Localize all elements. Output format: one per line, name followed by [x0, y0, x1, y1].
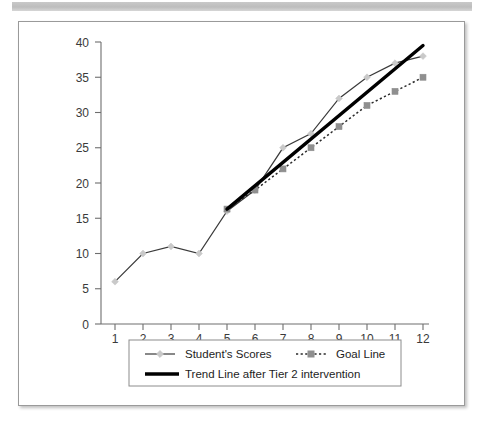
data-point-marker [196, 250, 203, 257]
data-point-marker [364, 102, 370, 108]
data-point-marker [420, 53, 427, 60]
line-chart: 0510152025303540 123456789101112 Student… [19, 22, 466, 407]
x-tick-label: 1 [112, 332, 119, 346]
top-banner [12, 2, 472, 11]
data-point-marker [280, 144, 287, 151]
data-point-marker [392, 88, 398, 94]
legend-label-trend-line: Trend Line after Tier 2 intervention [185, 368, 360, 380]
y-axis-ticks: 0510152025303540 [76, 36, 101, 332]
y-tick-label: 10 [76, 247, 90, 261]
y-tick-label: 40 [76, 36, 90, 50]
series-line [227, 46, 423, 210]
y-tick-label: 0 [82, 318, 89, 332]
x-tick-label: 12 [416, 332, 430, 346]
data-point-marker [280, 166, 286, 172]
chart-plot-area: 0510152025303540 123456789101112 Student… [19, 22, 466, 407]
chart-legend: Student's ScoresGoal LineTrend Line afte… [129, 340, 401, 386]
y-tick-label: 15 [76, 212, 90, 226]
data-point-marker [420, 74, 426, 80]
y-tick-label: 35 [76, 71, 90, 85]
data-point-marker [336, 124, 342, 130]
y-tick-label: 30 [76, 106, 90, 120]
chart-series-layer [112, 46, 427, 286]
legend-label-students-scores: Student's Scores [185, 348, 272, 360]
y-tick-label: 5 [82, 282, 89, 296]
legend-label-goal-line: Goal Line [336, 348, 385, 360]
data-point-marker [308, 145, 314, 151]
y-tick-label: 25 [76, 141, 90, 155]
y-tick-label: 20 [76, 177, 90, 191]
figure-card: 0510152025303540 123456789101112 Student… [18, 21, 465, 406]
legend-marker-square-icon [308, 351, 314, 357]
series-line [115, 56, 423, 282]
data-point-marker [168, 243, 175, 250]
